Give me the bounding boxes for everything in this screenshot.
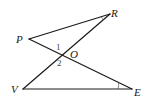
segment-PE: [29, 39, 132, 89]
label-P: P: [15, 33, 23, 45]
segment-RV: [23, 14, 110, 89]
label-angle-2: 2: [57, 58, 62, 68]
label-V: V: [11, 83, 19, 95]
label-angle-1: 1: [56, 42, 61, 52]
angle-mark-R: [101, 17, 103, 20]
segment-PR: [29, 14, 110, 39]
geometry-diagram: P R O V E 1 2: [0, 0, 150, 106]
label-O: O: [70, 48, 78, 60]
label-R: R: [110, 7, 118, 19]
label-E: E: [133, 86, 141, 98]
angle-mark-E: [118, 83, 119, 90]
